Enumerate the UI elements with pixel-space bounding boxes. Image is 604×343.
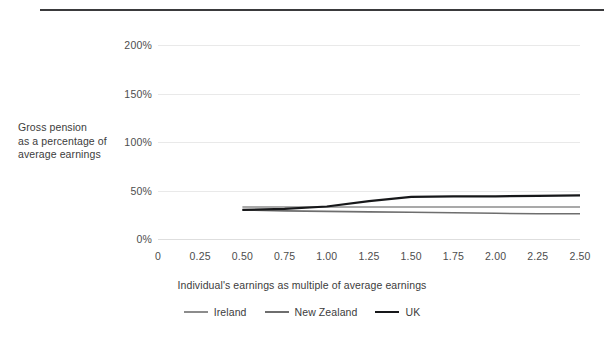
legend-label: Ireland xyxy=(214,306,247,318)
legend-item-ireland[interactable]: Ireland xyxy=(184,306,247,318)
y-axis-title: Gross pension as a percentage of average… xyxy=(18,121,118,162)
gridline xyxy=(158,191,580,192)
x-axis-baseline xyxy=(158,239,580,240)
legend-label: UK xyxy=(405,306,420,318)
y-axis-tick-label: 150% xyxy=(108,88,152,100)
y-axis-title-line-3: average earnings xyxy=(18,148,118,162)
y-axis-tick-label: 200% xyxy=(108,39,152,51)
x-axis-tick-label: 2.50 xyxy=(555,250,604,262)
legend-swatch-icon xyxy=(265,311,289,313)
gridline xyxy=(158,142,580,143)
plot-area xyxy=(158,45,580,239)
legend-item-uk[interactable]: UK xyxy=(375,306,420,318)
x-axis-title: Individual's earnings as multiple of ave… xyxy=(0,279,604,291)
gridline xyxy=(158,45,580,46)
chart-legend: IrelandNew ZealandUK xyxy=(0,306,604,318)
y-axis-title-line-2: as a percentage of xyxy=(18,135,118,149)
y-axis-title-line-1: Gross pension xyxy=(18,121,118,135)
chart-container: Gross pension as a percentage of average… xyxy=(0,0,604,343)
legend-swatch-icon xyxy=(184,311,208,313)
header-divider xyxy=(40,9,604,11)
legend-swatch-icon xyxy=(375,311,399,313)
legend-label: New Zealand xyxy=(295,306,358,318)
y-axis-tick-label: 0% xyxy=(108,233,152,245)
legend-item-new-zealand[interactable]: New Zealand xyxy=(265,306,358,318)
gridline xyxy=(158,94,580,95)
series-line-new-zealand xyxy=(242,210,580,214)
y-axis-tick-label: 50% xyxy=(108,185,152,197)
